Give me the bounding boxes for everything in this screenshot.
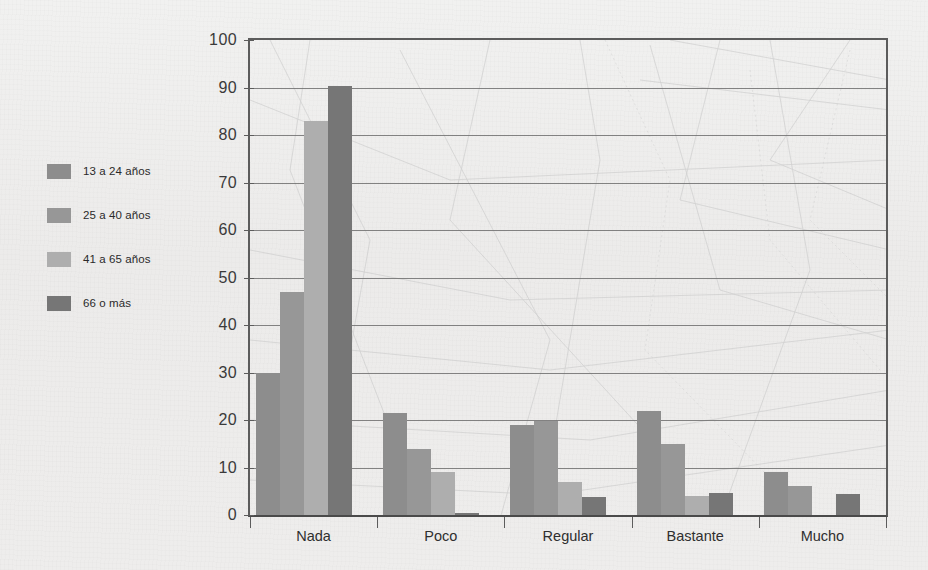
legend-swatch-41-65 [47,252,71,267]
y-tick-mark-60 [244,230,254,231]
x-tick-mark-2 [504,517,505,528]
bar [280,292,304,515]
y-axis: 0102030405060708090100 [185,38,237,517]
bar [558,482,582,515]
y-tick-mark-70 [244,183,254,184]
bar-group-poco [383,40,479,515]
y-tick-label-0: 0 [228,506,237,524]
bar [383,413,407,515]
x-tick-mark-5 [886,517,887,528]
y-tick-mark-40 [244,325,254,326]
bar-series-container [250,40,886,515]
y-tick-label-40: 40 [218,316,237,334]
bar [582,497,606,515]
legend-label-66-mas: 66 o más [83,297,131,309]
bar [709,493,733,515]
bar [836,494,860,515]
x-category-label-regular: Regular [543,528,594,544]
chart-legend: 13 a 24 años 25 a 40 años 41 a 65 años 6… [47,160,192,336]
bar [304,121,328,515]
legend-swatch-13-24 [47,164,71,179]
y-tick-label-10: 10 [218,459,237,477]
x-tick-mark-1 [377,517,378,528]
y-tick-mark-30 [244,373,254,374]
y-tick-mark-0 [244,515,254,516]
legend-item: 25 a 40 años [47,204,192,226]
y-tick-label-30: 30 [218,364,237,382]
legend-label-41-65: 41 a 65 años [83,253,151,265]
y-tick-label-90: 90 [218,79,237,97]
legend-swatch-25-40 [47,208,71,223]
bar [661,444,685,515]
x-category-label-nada: Nada [296,528,331,544]
y-tick-label-50: 50 [218,269,237,287]
y-tick-mark-50 [244,278,254,279]
bar-chart-plot-area [248,38,888,517]
y-tick-mark-80 [244,135,254,136]
bar-group-nada [256,40,352,515]
y-tick-mark-100 [244,40,254,41]
bar [328,86,352,515]
x-tick-mark-0 [250,517,251,528]
x-tick-mark-3 [632,517,633,528]
bar [764,472,788,515]
x-category-label-mucho: Mucho [801,528,845,544]
bar [407,449,431,516]
bar [637,411,661,516]
legend-item: 66 o más [47,292,192,314]
bar-group-regular [510,40,606,515]
bar [685,496,709,515]
bar [256,373,280,516]
legend-item: 41 a 65 años [47,248,192,270]
y-tick-mark-90 [244,88,254,89]
legend-item: 13 a 24 años [47,160,192,182]
y-tick-label-60: 60 [218,221,237,239]
legend-swatch-66-mas [47,296,71,311]
bar [534,421,558,515]
y-tick-mark-10 [244,468,254,469]
legend-label-13-24: 13 a 24 años [83,165,151,177]
x-category-label-poco: Poco [424,528,457,544]
bar [510,425,534,515]
legend-label-25-40: 25 a 40 años [83,209,151,221]
bar-group-mucho [764,40,860,515]
y-tick-mark-20 [244,420,254,421]
y-tick-label-20: 20 [218,411,237,429]
x-category-label-bastante: Bastante [667,528,724,544]
bar [431,472,455,515]
y-tick-label-100: 100 [209,31,237,49]
y-tick-label-80: 80 [218,126,237,144]
x-tick-mark-4 [759,517,760,528]
bar-group-bastante [637,40,733,515]
y-tick-label-70: 70 [218,174,237,192]
bar [455,513,479,515]
bar [788,486,812,515]
